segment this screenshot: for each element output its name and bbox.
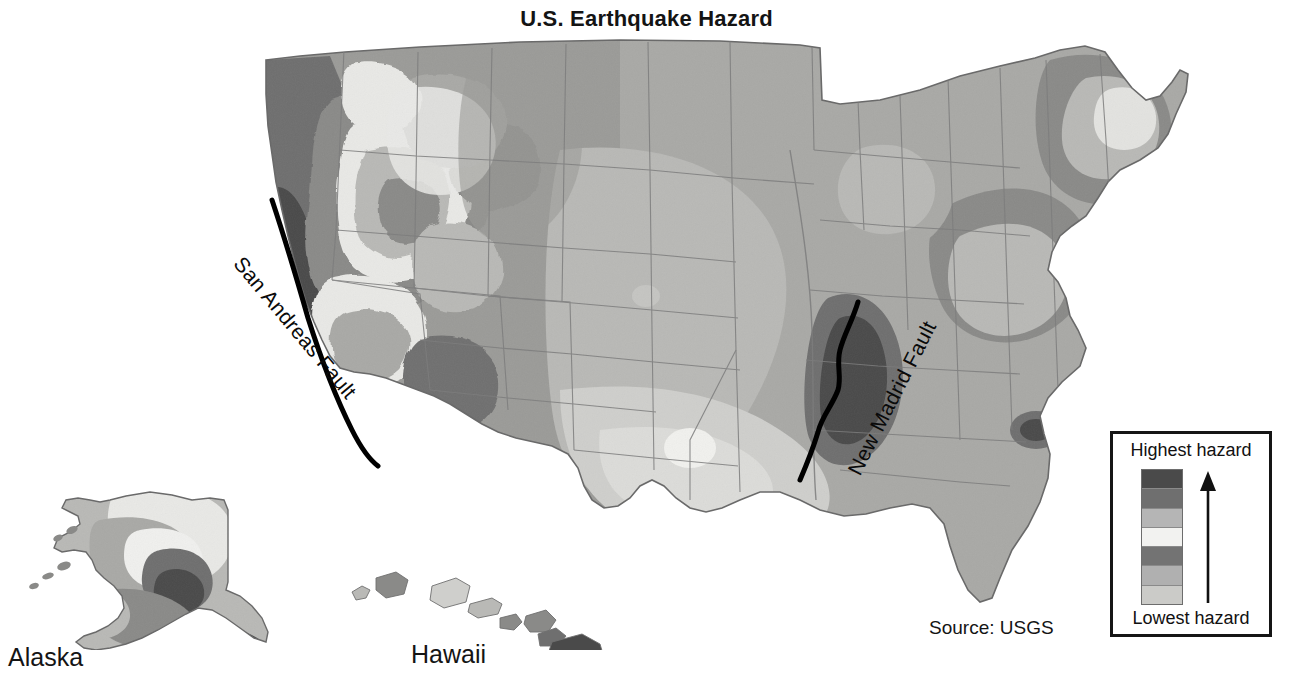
legend-lowest-label: Lowest hazard [1113,608,1269,629]
legend-swatch-band-4 [1142,528,1182,547]
us-hazard-map-svg [0,30,1293,650]
legend-body [1113,467,1269,602]
hawaii-inset-label: Hawaii [411,640,486,669]
legend-highest-label: Highest hazard [1113,440,1269,461]
alaska-inset-label: Alaska [8,643,83,672]
alaska-inset[interactable] [28,480,280,650]
page-title: U.S. Earthquake Hazard [0,6,1293,32]
legend-swatch-band-5 [1142,509,1182,528]
legend-arrow [1195,469,1221,605]
map-figure: U.S. Earthquake Hazard [0,0,1293,689]
legend-swatch-band-3 [1142,547,1182,566]
legend-swatch-band-6 [1142,489,1182,508]
legend-color-ramp [1141,469,1183,605]
legend-swatch-band-7-highest [1142,470,1182,489]
legend-swatch-band-2 [1142,566,1182,585]
up-arrow-icon [1195,469,1221,605]
legend-swatch-band-1-lowest [1142,586,1182,604]
source-credit: Source: USGS [929,617,1054,639]
hawaii-inset[interactable] [352,572,606,650]
hazard-legend[interactable]: Highest hazard Lowest hazard [1110,431,1272,637]
map-canvas[interactable]: San Andreas Fault New Madrid Fault [0,30,1293,650]
